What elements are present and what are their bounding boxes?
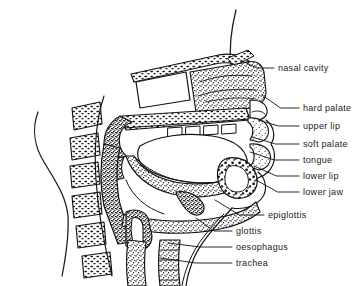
label-tongue: tongue — [303, 156, 332, 165]
trachea-tube — [159, 240, 181, 286]
label-lower-lip: lower lip — [303, 172, 339, 181]
label-soft-palate: soft palate — [303, 140, 348, 149]
label-lower-jaw: lower jaw — [303, 188, 343, 197]
label-hard-palate: hard palate — [303, 104, 351, 113]
label-trachea: trachea — [236, 259, 268, 268]
leader-line-hard-palate — [262, 95, 299, 108]
nose-tip — [250, 100, 267, 120]
oesophagus-tube — [127, 240, 147, 286]
label-nasal-cavity: nasal cavity — [278, 64, 329, 73]
label-glottis: glottis — [236, 227, 262, 236]
label-upper-lip: upper lip — [303, 122, 340, 131]
leader-line-lower-jaw — [256, 180, 299, 192]
figure-canvas: nasal cavityhard palateupper lipsoft pal… — [0, 0, 362, 286]
label-oesophagus: oesophagus — [236, 243, 288, 252]
label-epiglottis: epiglottis — [268, 211, 307, 220]
face-profile-outline — [35, 112, 69, 276]
lower-lip — [250, 144, 270, 170]
upper-lip — [248, 118, 269, 142]
